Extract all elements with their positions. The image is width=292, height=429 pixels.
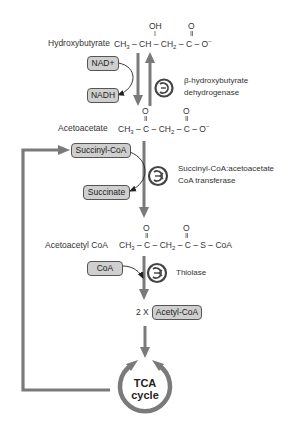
multiplier-label: 2 X: [136, 307, 149, 317]
carbonyl-oxygen-2: O: [183, 106, 190, 116]
enzyme-3-name: Thiolase: [176, 268, 206, 277]
coa-arrow: [123, 266, 143, 278]
enzyme-2-name-line1: Succinyl-CoA:acetoacetate: [178, 164, 274, 173]
acetoacetate-label: Acetoacetate: [58, 123, 108, 133]
hydroxybutyrate-formula: CH3 – CH – CH2 – C – O–: [114, 38, 211, 50]
acetyl-coa-label: Acetyl-CoA: [156, 307, 199, 317]
thioester-oxygen: O: [183, 223, 190, 233]
enzyme-1-name-line1: β-hydroxybutyrate: [184, 76, 248, 85]
pathway-arrows: [0, 0, 292, 429]
down-arrow-to-tca: [140, 326, 150, 358]
tca-label-line1: TCA: [125, 377, 165, 389]
down-arrow-step3: [139, 256, 149, 300]
succinyl-coa-box: Succinyl-CoA: [71, 143, 131, 158]
nad-plus-label: NAD+: [92, 58, 115, 68]
enzyme-1-name-line2: dehydrogenase: [184, 88, 239, 97]
nadh-label: NADH: [91, 90, 115, 100]
down-arrow-step1: [133, 53, 143, 106]
hydroxybutyrate-label: Hydroxybutyrate: [48, 38, 110, 48]
succinate-box: Succinate: [83, 185, 130, 200]
nadh-box: NADH: [87, 88, 119, 103]
enzyme-icon-3: [148, 264, 166, 282]
coa-label: CoA: [97, 263, 114, 273]
hydroxyl-group: OH: [149, 21, 162, 31]
nad-to-nadh-arrow: [118, 63, 133, 95]
carbonyl-oxygen: O: [188, 21, 195, 31]
ketone-oxygen-3: O: [143, 223, 150, 233]
ketone-oxygen-1: O: [142, 106, 149, 116]
acetoacetyl-coa-formula: CH3 – C – CH2 – C – S – CoA: [119, 240, 232, 251]
up-arrow-step1: [145, 52, 155, 106]
down-arrow-step2: [139, 141, 149, 218]
coa-box: CoA: [87, 261, 123, 276]
acetoacetate-formula: CH3 – C – CH2 – C – O–: [118, 123, 209, 135]
nad-plus-box: NAD+: [87, 56, 119, 71]
enzyme-icon-2: [149, 167, 167, 185]
succinyl-coa-label: Succinyl-CoA: [75, 145, 126, 155]
succinate-label: Succinate: [88, 187, 125, 197]
enzyme-2-name-line2: CoA transferase: [178, 176, 235, 185]
tca-label-line2: cycle: [125, 389, 165, 401]
acetoacetyl-coa-label: Acetoacetyl CoA: [45, 240, 108, 250]
acetyl-coa-box: Acetyl-CoA: [152, 305, 202, 320]
enzyme-icon-1: [156, 80, 173, 97]
tca-cycle-label: TCA cycle: [125, 377, 165, 401]
